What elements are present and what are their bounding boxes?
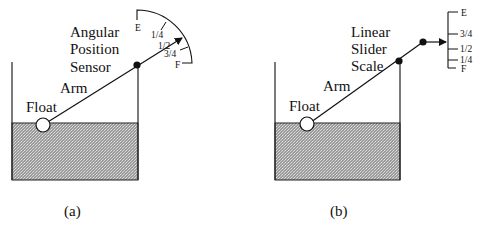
float	[300, 117, 314, 131]
scale-mark-three-quarter: 3/4	[460, 29, 472, 39]
scale-mark-quarter: 1/4	[151, 30, 163, 40]
panel-b-linear: E 3/4 1/2 1/4 F Linear Slider Scale Arm …	[275, 8, 472, 220]
scale-mark-f: F	[175, 60, 180, 70]
scale-mark-e: E	[461, 8, 467, 18]
sensor-label-line3: Scale	[351, 58, 384, 74]
sensor-label-line1: Linear	[351, 24, 390, 40]
scale-mark-f: F	[461, 64, 466, 74]
sensor-label-line3: Sensor	[70, 59, 111, 75]
liquid	[12, 123, 138, 180]
pivot	[133, 61, 140, 68]
arm-label: Arm	[323, 78, 351, 94]
panel-a-angular: E 1/4 1/2 3/4 F Angular Position Sensor …	[12, 10, 192, 220]
sensor-label-line2: Slider	[351, 41, 387, 57]
float-label: Float	[289, 98, 321, 114]
fuel-gauge-diagram: E 1/4 1/2 3/4 F Angular Position Sensor …	[0, 0, 482, 225]
scale-mark-three-quarter: 3/4	[164, 49, 176, 59]
linear-scale: E 3/4 1/2 1/4 F	[448, 8, 472, 74]
caption-b: (b)	[330, 203, 348, 220]
sensor-label-line1: Angular	[70, 24, 119, 40]
float	[36, 118, 50, 132]
angular-scale: E 1/4 1/2 3/4 F	[135, 10, 192, 70]
sensor-label-line2: Position	[70, 41, 120, 57]
pivot	[395, 57, 402, 64]
arm-label: Arm	[60, 80, 88, 96]
float-label: Float	[26, 99, 58, 115]
scale-mark-e: E	[135, 23, 141, 33]
caption-a: (a)	[64, 203, 81, 220]
scale-mark-half: 1/2	[460, 44, 472, 54]
liquid	[275, 123, 400, 180]
